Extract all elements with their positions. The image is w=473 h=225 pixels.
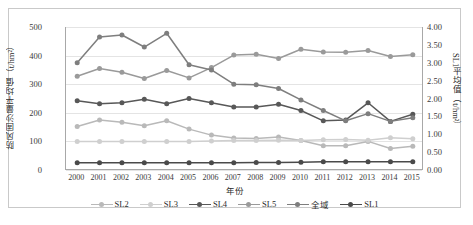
- legend-label: SL2: [115, 199, 129, 209]
- data-point: [388, 54, 393, 59]
- data-point: [231, 82, 236, 87]
- data-point: [164, 160, 169, 165]
- data-point: [142, 123, 147, 128]
- data-point: [164, 139, 169, 144]
- legend-label: SL4: [213, 199, 227, 209]
- data-point: [298, 97, 303, 102]
- data-point: [119, 120, 124, 125]
- data-point: [187, 139, 192, 144]
- data-point: [231, 105, 236, 110]
- legend-item-SL4[interactable]: SL4: [189, 199, 227, 209]
- legend-item-SL1[interactable]: SL1: [340, 199, 378, 209]
- series-SL4: [75, 96, 416, 124]
- y-axis-left-title: 防风固沙量平均值（t/hm²）: [5, 41, 19, 149]
- chart-frame: 0100200300400500 0.000.501.001.502.002.5…: [8, 8, 461, 208]
- data-point: [276, 138, 281, 143]
- data-point: [231, 53, 236, 58]
- legend-item-全域[interactable]: 全域: [287, 198, 329, 210]
- data-point: [119, 160, 124, 165]
- data-point: [276, 102, 281, 107]
- series-line: [77, 33, 413, 121]
- data-point: [75, 160, 80, 165]
- series-line: [77, 120, 413, 149]
- data-point: [276, 56, 281, 61]
- data-point: [97, 139, 102, 144]
- data-point: [142, 45, 147, 50]
- data-point: [321, 108, 326, 113]
- x-axis-tick-label: 2015: [399, 173, 425, 182]
- data-point: [410, 144, 415, 149]
- data-point: [97, 117, 102, 122]
- data-point: [187, 62, 192, 67]
- gridline: [66, 170, 422, 171]
- data-point: [119, 33, 124, 38]
- data-point: [410, 52, 415, 57]
- legend-marker-icon: [140, 200, 162, 208]
- data-point: [388, 159, 393, 164]
- data-point: [276, 86, 281, 91]
- data-point: [97, 101, 102, 106]
- y-axis-right-title: SL1平均值（t/hm²）: [448, 53, 462, 130]
- data-point: [410, 159, 415, 164]
- data-point: [298, 108, 303, 113]
- data-point: [388, 146, 393, 151]
- data-point: [366, 100, 371, 105]
- data-point: [254, 138, 259, 143]
- data-point: [142, 139, 147, 144]
- data-point: [209, 160, 214, 165]
- data-point: [298, 138, 303, 143]
- data-point: [142, 160, 147, 165]
- data-point: [410, 136, 415, 141]
- data-point: [209, 133, 214, 138]
- legend-item-SL5[interactable]: SL5: [238, 199, 276, 209]
- series-全域: [75, 31, 416, 124]
- data-point: [187, 160, 192, 165]
- series-line: [77, 162, 413, 163]
- series-layer: [66, 27, 424, 170]
- data-point: [254, 82, 259, 87]
- data-point: [254, 105, 259, 110]
- legend-marker-icon: [91, 200, 113, 208]
- data-point: [75, 60, 80, 65]
- data-point: [209, 139, 214, 144]
- data-point: [254, 52, 259, 57]
- y-axis-right-tick-label: 0.00: [427, 166, 457, 174]
- series-line: [77, 99, 413, 122]
- y-axis-right-tick-label: 1.00: [427, 130, 457, 138]
- data-point: [343, 118, 348, 123]
- data-point: [97, 160, 102, 165]
- legend-label: 全域: [311, 198, 329, 210]
- data-point: [75, 74, 80, 79]
- data-point: [119, 100, 124, 105]
- data-point: [366, 48, 371, 53]
- series-line: [77, 49, 413, 78]
- y-axis-right-tick-label: 4.00: [427, 23, 457, 31]
- data-point: [388, 119, 393, 124]
- legend-item-SL3[interactable]: SL3: [140, 199, 178, 209]
- data-point: [321, 143, 326, 148]
- data-point: [298, 47, 303, 52]
- data-point: [164, 101, 169, 106]
- series-SL2: [75, 117, 416, 151]
- y-axis-right-tick-label: 0.50: [427, 148, 457, 156]
- data-point: [142, 76, 147, 81]
- data-point: [343, 143, 348, 148]
- data-point: [366, 138, 371, 143]
- data-point: [187, 127, 192, 132]
- data-point: [142, 97, 147, 102]
- data-point: [343, 50, 348, 55]
- data-point: [321, 159, 326, 164]
- plot-area: [65, 27, 423, 170]
- data-point: [119, 139, 124, 144]
- data-point: [343, 137, 348, 142]
- chart-legend: SL2SL3SL4SL5全域SL1: [9, 198, 460, 210]
- data-point: [231, 138, 236, 143]
- data-point: [164, 68, 169, 73]
- data-point: [119, 70, 124, 75]
- data-point: [343, 159, 348, 164]
- legend-item-SL2[interactable]: SL2: [91, 199, 129, 209]
- data-point: [410, 115, 415, 120]
- data-point: [366, 159, 371, 164]
- legend-marker-icon: [189, 200, 211, 208]
- y-axis-left-tick-label: 0: [12, 166, 42, 174]
